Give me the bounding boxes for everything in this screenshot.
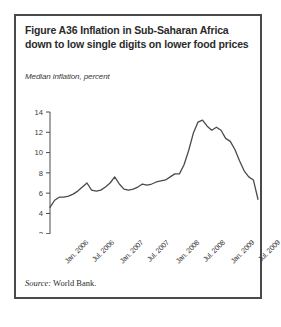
chart-subtitle: Median inflation, percent [25,72,110,81]
figure-inner: Figure A36 Inflation in Sub-Saharan Afri… [16,16,260,297]
x-tick-label: Jan. 2008 [174,238,201,265]
x-tick-label: Jul. 2009 [256,238,276,264]
page-title: Figure A36 Inflation in Sub-Saharan Afri… [25,24,253,51]
y-axis-ticks: 02468101214 [35,108,50,234]
x-axis-label-layer: Jan. 2006Jul. 2006Jan. 2007Jul. 2007Jan.… [16,234,260,282]
data-line-median-inflation [50,120,258,207]
y-tick-label: 6 [39,189,43,198]
x-tick-label: Jul. 2007 [145,238,171,264]
source-label: Source: [25,278,51,288]
chart-source-note: Source: World Bank. [25,278,96,288]
y-tick-label: 14 [35,108,43,117]
y-tick-label: 10 [35,148,43,157]
x-tick-label: Jul. 2006 [90,238,116,264]
x-tick-label: Jan. 2006 [63,238,90,265]
x-tick-label: Jul. 2008 [201,238,227,264]
y-tick-label: 8 [39,169,43,178]
x-tick-label: Jan. 2009 [229,238,256,265]
x-tick-label: Jan. 2007 [118,238,145,265]
line-chart-svg: 02468101214 [16,84,260,234]
source-text: World Bank. [51,278,96,288]
y-tick-label: 12 [35,128,43,137]
y-tick-label: 4 [39,209,43,218]
figure-frame: Figure A36 Inflation in Sub-Saharan Afri… [14,14,262,299]
chart-plot-area: 02468101214 [16,84,260,234]
